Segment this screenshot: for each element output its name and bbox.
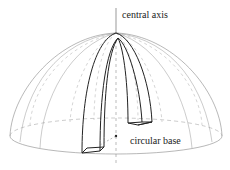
base-radius-line [100,136,116,145]
dome-diagram: central axis circular base [0,0,230,170]
circular-base-label: circular base [130,135,181,146]
central-axis-label: central axis [122,9,168,20]
